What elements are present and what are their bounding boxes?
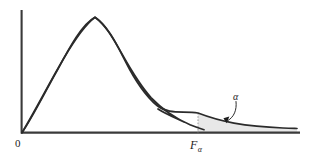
critical-value-base: F <box>189 138 198 152</box>
tail-area-label: α <box>233 91 239 102</box>
f-distribution-figure: 0 Fα α <box>0 0 316 165</box>
alpha-leader-line <box>228 102 236 121</box>
critical-value-label: Fα <box>189 138 203 154</box>
f-density-curve-final <box>22 17 297 132</box>
critical-value-subscript: α <box>198 145 203 154</box>
shaded-tail-region <box>198 113 297 133</box>
f-density-curve <box>22 17 204 132</box>
f-distribution-plot: 0 Fα α <box>0 0 316 165</box>
origin-label: 0 <box>15 137 21 149</box>
